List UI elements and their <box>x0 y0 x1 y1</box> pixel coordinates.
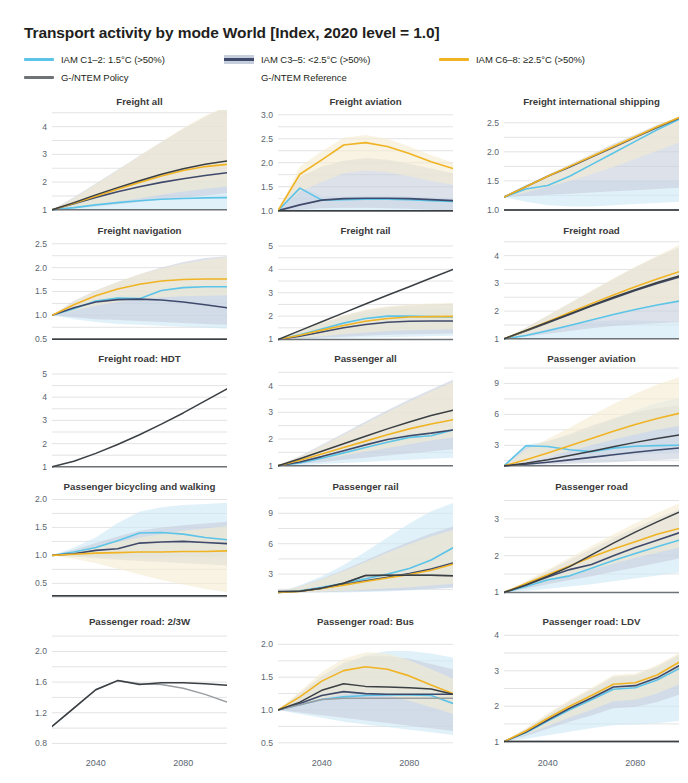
y-axis-tick-label: 2.0 <box>14 646 47 656</box>
legend-label-reference: G-/NTEM Reference <box>261 72 347 83</box>
y-axis-tick-label: 1.6 <box>14 677 47 687</box>
y-axis-tick-label: 1.5 <box>466 176 499 186</box>
subplot-title: Passenger bicycling and walking <box>52 481 227 492</box>
plot-area <box>52 110 227 214</box>
y-axis-tick-label: 2 <box>466 701 499 711</box>
y-axis-tick-label: 3 <box>466 278 499 288</box>
subplot-title: Passenger all <box>278 353 453 364</box>
y-axis-tick-label: 1.0 <box>466 205 499 215</box>
y-axis-tick-label: 3 <box>240 407 273 417</box>
figure-title: Transport activity by mode World [Index,… <box>24 24 440 42</box>
y-axis-tick-label: 2 <box>240 311 273 321</box>
plot-area <box>504 367 679 471</box>
y-axis-tick-label: 3.0 <box>240 110 273 120</box>
y-axis-tick-label: 1.0 <box>240 705 273 715</box>
y-axis-tick-label: 3 <box>240 288 273 298</box>
plot-area <box>278 495 453 599</box>
plot-area <box>278 239 453 343</box>
y-axis-tick-label: 2.0 <box>466 147 499 157</box>
subplot-title: Passenger road: Bus <box>278 616 453 627</box>
subplot-title: Freight all <box>52 96 227 107</box>
y-axis-tick-label: 1 <box>466 587 499 597</box>
subplot-title: Freight navigation <box>52 225 227 236</box>
x-axis-tick-label: 2040 <box>538 758 558 768</box>
legend-label-c3-5: IAM C3–5: <2.5°C (>50%) <box>261 54 370 65</box>
y-axis-tick-label: 1 <box>240 461 273 471</box>
y-axis-tick-label: 1.2 <box>14 708 47 718</box>
y-axis-tick-label: 2 <box>466 306 499 316</box>
y-axis-tick-label: 1.5 <box>14 522 47 532</box>
y-axis-tick-label: 4 <box>14 392 47 402</box>
y-axis-tick-label: 2 <box>14 439 47 449</box>
plot-area <box>52 367 227 471</box>
plot-area <box>278 367 453 471</box>
y-axis-tick-label: 0.5 <box>14 334 47 344</box>
plot-area <box>52 630 227 748</box>
legend-item-c1-2: IAM C1–2: 1.5°C (>50%) <box>24 54 224 65</box>
y-axis-tick-label: 2.5 <box>466 118 499 128</box>
y-axis-tick-label: 1.0 <box>240 206 273 216</box>
subplot-title: Passenger aviation <box>504 353 679 364</box>
y-axis-tick-label: 2.0 <box>240 639 273 649</box>
y-axis-tick-label: 0.8 <box>14 738 47 748</box>
plot-area <box>504 239 679 343</box>
y-axis-tick-label: 3 <box>466 666 499 676</box>
subplot-title: Freight rail <box>278 225 453 236</box>
legend-item-reference: G-/NTEM Reference <box>224 72 347 83</box>
y-axis-tick-label: 3 <box>466 514 499 524</box>
y-axis-tick-label: 5 <box>240 241 273 251</box>
figure-legend: IAM C1–2: 1.5°C (>50%) IAM C3–5: <2.5°C … <box>24 50 664 86</box>
y-axis-tick-label: 1 <box>466 737 499 747</box>
y-axis-tick-label: 6 <box>466 409 499 419</box>
y-axis-tick-label: 4 <box>240 381 273 391</box>
y-axis-tick-label: 1.5 <box>240 182 273 192</box>
y-axis-tick-label: 1 <box>14 462 47 472</box>
subplot-title: Freight international shipping <box>504 96 679 107</box>
x-axis-tick-label: 2040 <box>312 758 332 768</box>
legend-label-policy: G-/NTEM Policy <box>61 72 128 83</box>
plot-area <box>52 239 227 343</box>
y-axis-tick-label: 2.0 <box>14 494 47 504</box>
y-axis-tick-label: 3 <box>466 440 499 450</box>
plot-area <box>278 630 453 748</box>
subplot-title: Passenger road: 2/3W <box>52 616 227 627</box>
y-axis-tick-label: 9 <box>240 508 273 518</box>
legend-item-c3-5: IAM C3–5: <2.5°C (>50%) <box>224 54 439 65</box>
y-axis-tick-label: 3 <box>240 569 273 579</box>
subplot-title: Passenger road: LDV <box>504 616 679 627</box>
subplot-title: Freight road: HDT <box>52 353 227 364</box>
y-axis-tick-label: 2.5 <box>14 239 47 249</box>
x-axis-tick-label: 2080 <box>173 758 193 768</box>
y-axis-tick-label: 2.5 <box>240 134 273 144</box>
legend-item-c6-8: IAM C6–8: ≥2.5°C (>50%) <box>439 54 585 65</box>
x-axis-tick-label: 2080 <box>399 758 419 768</box>
y-axis-tick-label: 1.5 <box>240 672 273 682</box>
y-axis-tick-label: 2.0 <box>240 158 273 168</box>
plot-area <box>504 630 679 748</box>
y-axis-tick-label: 0.5 <box>240 738 273 748</box>
subplot-title: Passenger rail <box>278 481 453 492</box>
y-axis-tick-label: 5 <box>14 369 47 379</box>
y-axis-tick-label: 0.5 <box>14 578 47 588</box>
y-axis-tick-label: 1.5 <box>14 286 47 296</box>
y-axis-tick-label: 4 <box>240 264 273 274</box>
legend-label-c1-2: IAM C1–2: 1.5°C (>50%) <box>61 54 165 65</box>
y-axis-tick-label: 9 <box>466 378 499 388</box>
y-axis-tick-label: 3 <box>14 415 47 425</box>
y-axis-tick-label: 1.0 <box>14 550 47 560</box>
plot-area <box>504 110 679 214</box>
legend-label-c6-8: IAM C6–8: ≥2.5°C (>50%) <box>476 54 585 65</box>
legend-swatch-c3-5-line <box>224 58 254 61</box>
y-axis-tick-label: 2 <box>14 177 47 187</box>
legend-item-policy: G-/NTEM Policy <box>24 72 224 83</box>
y-axis-tick-label: 2 <box>466 551 499 561</box>
y-axis-tick-label: 4 <box>466 630 499 640</box>
y-axis-tick-label: 2 <box>240 434 273 444</box>
legend-swatch-c1-2 <box>24 58 54 61</box>
legend-swatch-c3-5 <box>224 55 254 64</box>
subplot-title: Freight road <box>504 225 679 236</box>
legend-row-1: IAM C1–2: 1.5°C (>50%) IAM C3–5: <2.5°C … <box>24 50 664 68</box>
y-axis-tick-label: 1 <box>240 334 273 344</box>
y-axis-tick-label: 1 <box>466 334 499 344</box>
plot-area <box>504 495 679 599</box>
